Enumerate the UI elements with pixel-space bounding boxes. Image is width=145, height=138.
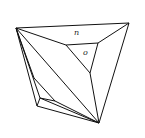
line-j-c [55,101,99,123]
line-a-h [16,28,40,98]
geometric-diagram: n o [0,0,145,138]
line-h-i [37,98,40,106]
label-o: o [83,48,88,57]
line-f-c [90,73,99,123]
inner-lines [16,23,129,123]
outer-quadrilateral [16,23,129,123]
label-n: n [74,28,79,37]
edge-bottom [37,106,99,123]
line-h-c [40,98,99,123]
edge-right [99,23,129,123]
line-d-e [66,43,98,45]
edge-top [16,23,129,28]
line-e-f [90,43,98,73]
